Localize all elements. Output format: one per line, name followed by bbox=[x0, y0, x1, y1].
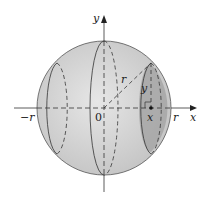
pos-r-label: r bbox=[173, 111, 179, 124]
x-point-label: x bbox=[147, 111, 154, 124]
origin-label: 0 bbox=[95, 111, 102, 124]
neg-r-label: −r bbox=[20, 111, 35, 124]
x-axis-label: x bbox=[190, 111, 197, 124]
radius-label: r bbox=[121, 73, 127, 86]
y-axis-arrow-icon bbox=[101, 15, 107, 23]
x-point bbox=[149, 106, 153, 110]
sphere-diagram: y x −r 0 r x r y bbox=[0, 0, 210, 200]
y-height-label: y bbox=[140, 82, 148, 95]
y-axis-label: y bbox=[92, 12, 100, 25]
